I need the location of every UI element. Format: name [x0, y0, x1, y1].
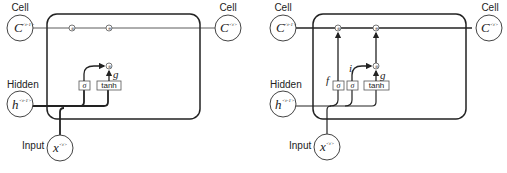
svg-text:Cell: Cell — [11, 2, 28, 13]
svg-text:<t-1>: <t-1> — [284, 22, 296, 27]
svg-text:<t-1>: <t-1> — [19, 98, 31, 103]
hidden-to-input — [345, 90, 352, 106]
g-label: g — [380, 69, 386, 81]
svg-text:Cell: Cell — [274, 2, 291, 13]
left-diagram: ⊗ ⊕ σ tanh g ⊗ Cell — [7, 2, 241, 161]
input-to-mult-arrow — [352, 66, 371, 81]
cell-prev-node: Cell C <t-1> — [270, 2, 296, 41]
svg-text:h: h — [12, 97, 19, 112]
svg-text:Cell: Cell — [481, 2, 498, 13]
tanh-gate: tanh — [364, 81, 389, 90]
multiply-symbol: ⊗ — [71, 26, 74, 31]
svg-text:<t>: <t> — [326, 141, 334, 146]
hidden-prev-node: Hidden h <t-1> — [270, 79, 302, 117]
svg-text:<t>: <t> — [229, 22, 237, 27]
plus-symbol: ⊕ — [375, 26, 378, 31]
cell-prev-node: Cell C <t-1> — [7, 2, 34, 41]
input-multiply-node: ⊗ — [106, 63, 112, 69]
svg-text:x: x — [52, 140, 59, 155]
svg-text:Hidden: Hidden — [7, 79, 39, 90]
f-label: f — [326, 74, 331, 86]
input-multiply-node: ⊗ — [373, 63, 379, 69]
cell-next-node: Cell C <t> — [215, 2, 241, 41]
input-path — [327, 106, 331, 134]
cell-next-node: Cell C <t> — [476, 2, 502, 41]
plus-symbol: ⊕ — [108, 26, 111, 31]
input-node: Input x <t> — [22, 135, 73, 161]
svg-text:tanh: tanh — [369, 81, 385, 90]
forget-multiply-node: ⊗ — [69, 25, 75, 31]
svg-text:C: C — [481, 20, 490, 35]
svg-text:<t-1>: <t-1> — [22, 22, 34, 27]
sigma-to-mult-arrow — [84, 66, 104, 81]
hidden-to-forget — [330, 90, 338, 106]
input-path — [60, 108, 64, 135]
lstm-diagrams: ⊗ ⊕ σ tanh g ⊗ Cell — [0, 0, 507, 173]
forget-gate: σ — [333, 81, 344, 90]
forget-multiply-node: ⊗ — [335, 25, 341, 31]
svg-text:C: C — [220, 20, 229, 35]
multiply-symbol: ⊗ — [108, 64, 111, 69]
hidden-path — [33, 90, 84, 106]
hidden-path — [296, 90, 376, 106]
i-label: i — [349, 62, 352, 74]
hidden-prev-node: Hidden h <t-1> — [7, 79, 39, 117]
g-label: g — [113, 68, 119, 80]
svg-text:Cell: Cell — [219, 2, 236, 13]
multiply-symbol: ⊗ — [337, 26, 340, 31]
multiply-symbol: ⊗ — [375, 64, 378, 69]
svg-text:h: h — [275, 97, 282, 112]
add-node: ⊕ — [373, 25, 379, 31]
input-node: Input x <t> — [289, 134, 340, 160]
svg-text:<t>: <t> — [490, 22, 498, 27]
tanh-gate: tanh — [97, 81, 121, 90]
svg-text:<t>: <t> — [59, 142, 67, 147]
svg-text:tanh: tanh — [101, 81, 117, 90]
add-node: ⊕ — [106, 25, 112, 31]
svg-text:Input: Input — [22, 140, 44, 151]
svg-text:x: x — [319, 139, 326, 154]
sigma-gate: σ — [79, 81, 90, 90]
right-diagram: σ f σ tanh i g ⊗ ⊗ ⊕ — [270, 2, 502, 160]
svg-text:<t-1>: <t-1> — [282, 98, 294, 103]
input-gate: σ — [347, 81, 358, 90]
svg-text:Input: Input — [289, 140, 311, 151]
svg-text:Hidden: Hidden — [270, 79, 302, 90]
